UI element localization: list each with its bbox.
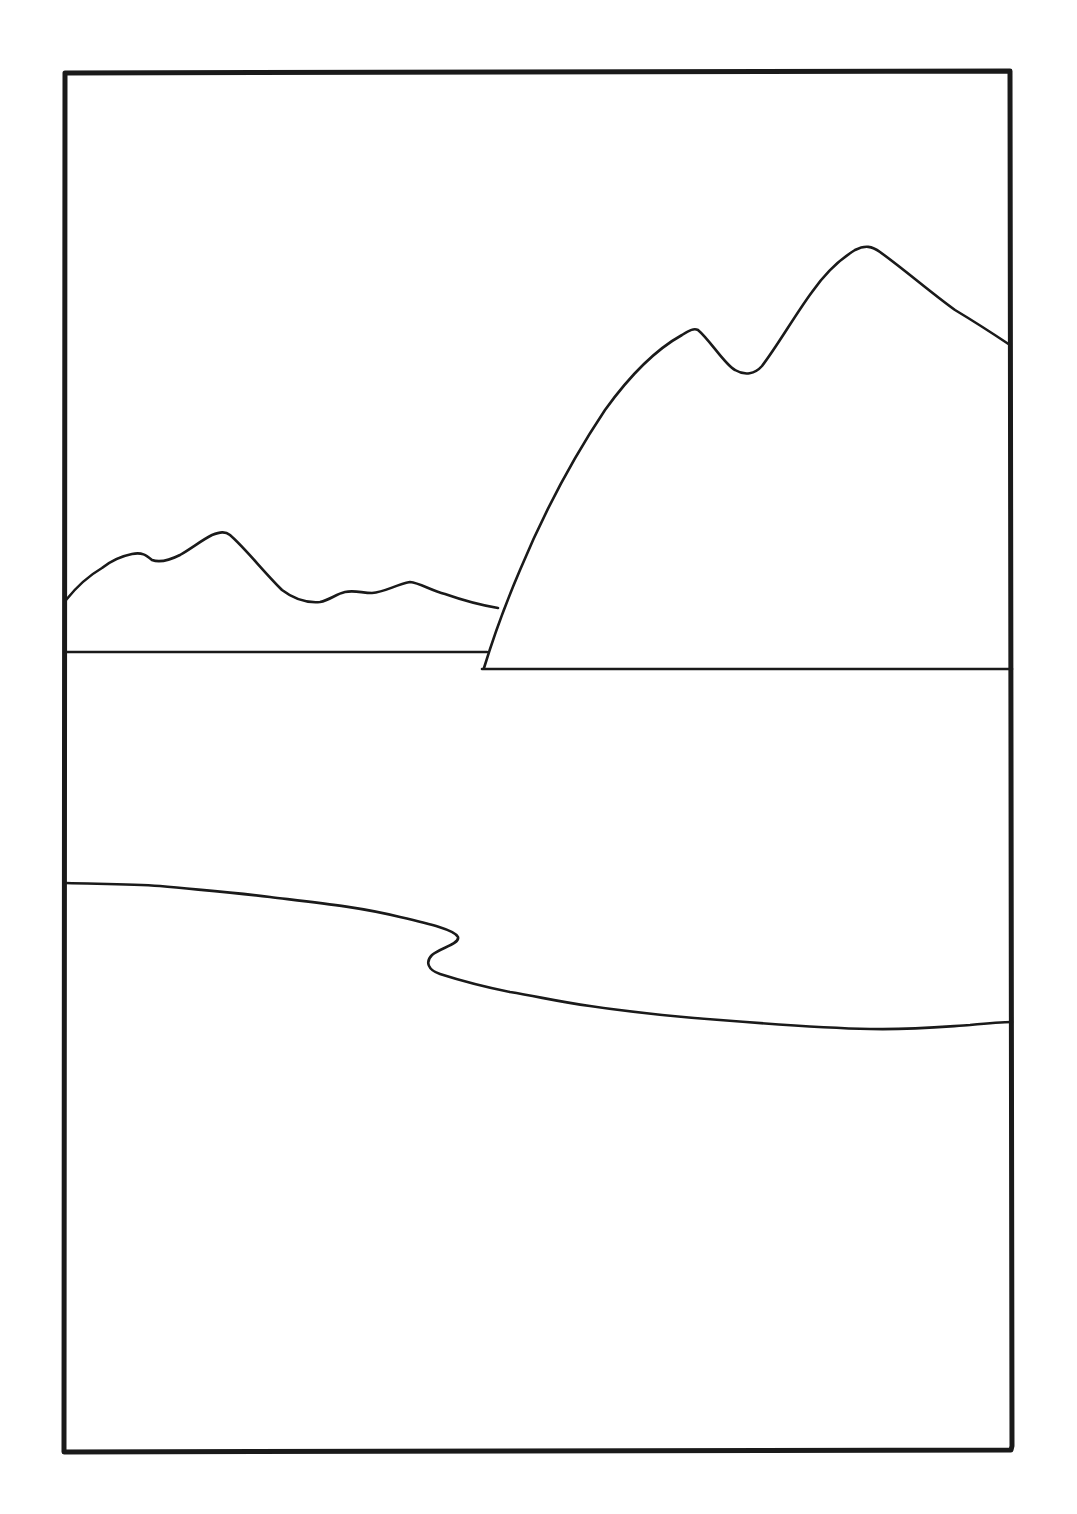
shoreline: [66, 883, 1012, 1029]
picture-frame: [64, 71, 1012, 1452]
landscape-drawing: [0, 0, 1077, 1514]
distant-mountain-range: [66, 532, 498, 608]
landscape-svg: [0, 0, 1077, 1514]
foreground-mountain: [484, 247, 1010, 668]
